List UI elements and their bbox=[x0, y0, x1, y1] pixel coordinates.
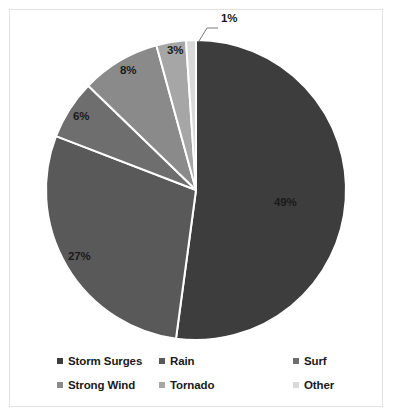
legend-label: Rain bbox=[170, 355, 195, 367]
legend-swatch-icon bbox=[159, 358, 165, 364]
legend: Storm SurgesRainSurfStrong WindTornadoOt… bbox=[9, 348, 383, 404]
legend-swatch-icon bbox=[159, 382, 165, 388]
slice-label-8pct: 8% bbox=[120, 64, 136, 76]
legend-item[interactable]: Rain bbox=[149, 350, 271, 372]
legend-label: Other bbox=[304, 379, 334, 391]
legend-swatch-icon bbox=[57, 382, 63, 388]
legend-item[interactable]: Storm Surges bbox=[9, 350, 149, 372]
legend-swatch-icon bbox=[293, 358, 299, 364]
slice-label-3pct: 3% bbox=[167, 44, 183, 56]
legend-item[interactable]: Surf bbox=[271, 350, 383, 372]
legend-label: Strong Wind bbox=[68, 379, 135, 391]
callout-leader-line bbox=[199, 28, 218, 41]
legend-label: Storm Surges bbox=[68, 355, 142, 367]
legend-label: Surf bbox=[304, 355, 327, 367]
legend-row: Storm SurgesRainSurf bbox=[9, 350, 383, 372]
slice-label-1pct: 1% bbox=[221, 12, 237, 24]
leader-line-group bbox=[199, 28, 218, 41]
slice-label-49pct: 49% bbox=[274, 196, 296, 208]
legend-swatch-icon bbox=[57, 358, 63, 364]
legend-row: Strong WindTornadoOther bbox=[9, 374, 383, 396]
legend-item[interactable]: Strong Wind bbox=[9, 374, 149, 396]
slice-label-6pct: 6% bbox=[73, 110, 89, 122]
pie-slices bbox=[46, 40, 346, 340]
legend-item[interactable]: Other bbox=[271, 374, 383, 396]
legend-swatch-icon bbox=[293, 382, 299, 388]
pie-slice bbox=[176, 40, 346, 340]
legend-label: Tornado bbox=[170, 379, 214, 391]
slice-label-27pct: 27% bbox=[68, 250, 90, 262]
legend-item[interactable]: Tornado bbox=[149, 374, 271, 396]
